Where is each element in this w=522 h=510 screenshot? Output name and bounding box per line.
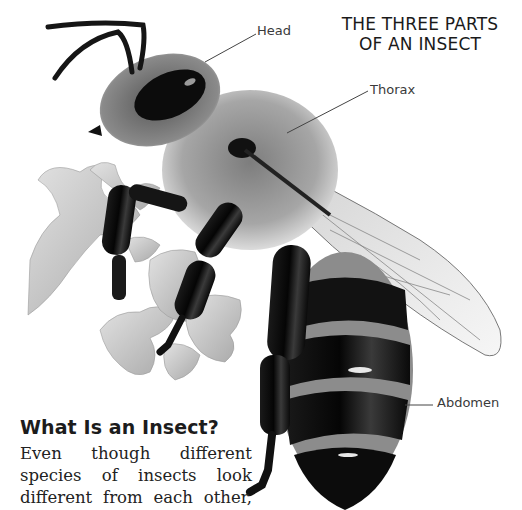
body-paragraph: Even though different species of insects…	[20, 443, 252, 509]
title-line-1: THE THREE PARTS	[322, 14, 518, 34]
label-abdomen: Abdomen	[437, 395, 499, 410]
title-line-2: OF AN INSECT	[322, 34, 518, 54]
body-line-1: Even though different	[20, 443, 252, 465]
label-thorax: Thorax	[370, 82, 415, 97]
section-heading: What Is an Insect?	[20, 416, 219, 438]
label-head: Head	[257, 23, 291, 38]
body-line-2: species of insects look	[20, 465, 252, 487]
leader-line-head	[205, 34, 256, 62]
body-line-3: different from each other,	[20, 487, 252, 509]
book-page: THE THREE PARTS OF AN INSECT Head Thorax…	[0, 0, 522, 510]
page-title: THE THREE PARTS OF AN INSECT	[322, 14, 518, 54]
